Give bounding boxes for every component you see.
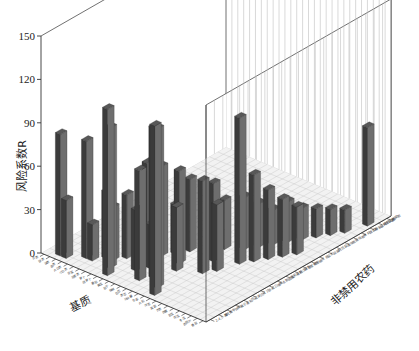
- bar-3d: [150, 120, 162, 295]
- bar-front-face: [278, 197, 283, 257]
- bar-side-face: [316, 205, 323, 238]
- z-tick-label: 30: [24, 204, 36, 216]
- z-axis-title: 风险系数R: [15, 140, 29, 192]
- bar-side-face: [254, 171, 261, 262]
- bar-side-face: [92, 221, 99, 261]
- top-left-edge: [41, 0, 226, 36]
- x-tick-mark: [164, 306, 168, 308]
- y-axis-title: 非禁用农药: [327, 261, 377, 308]
- x-tick-mark: [128, 291, 132, 293]
- bar-3d: [198, 175, 210, 274]
- x-tick-mark: [170, 308, 174, 310]
- x-tick-mark: [40, 254, 44, 256]
- bar-front-face: [340, 208, 345, 233]
- bar-front-face: [311, 207, 316, 238]
- bar-3d: [292, 201, 304, 255]
- x-tick-mark: [193, 318, 197, 320]
- x-tick-mark: [46, 257, 50, 259]
- x-tick-mark: [75, 269, 79, 271]
- bar-front-face: [212, 203, 217, 272]
- bar-side-face: [240, 114, 247, 264]
- x-tick-mark: [93, 276, 97, 278]
- bar-side-face: [190, 176, 197, 252]
- bar-front-face: [55, 132, 60, 256]
- bar-side-face: [282, 196, 289, 258]
- x-tick-mark: [87, 274, 91, 276]
- x-tick-mark: [58, 262, 62, 264]
- bar-3d: [185, 174, 197, 252]
- bar-front-face: [235, 116, 240, 264]
- x-tick-mark: [181, 313, 185, 315]
- bar-front-face: [171, 206, 176, 272]
- x-axis-title: 基质: [68, 293, 93, 314]
- z-tick-label: 120: [19, 73, 36, 85]
- x-tick-mark: [199, 321, 203, 323]
- bar-3d: [325, 204, 337, 236]
- bar-front-face: [150, 124, 155, 295]
- bar-side-face: [176, 204, 183, 272]
- bar-3d: [87, 219, 99, 261]
- bar-3d: [278, 194, 290, 258]
- bar-front-face: [325, 208, 330, 236]
- bar-3d: [362, 122, 374, 226]
- bar-front-face: [249, 173, 254, 262]
- bar-front-face: [103, 107, 108, 275]
- bar-3d: [340, 204, 352, 233]
- bar-3d: [103, 104, 115, 276]
- bar-front-face: [61, 199, 66, 259]
- x-tick-mark: [146, 299, 150, 301]
- bar-3d: [311, 203, 323, 238]
- bar-3d: [61, 195, 73, 259]
- x-tick-mark: [99, 279, 103, 281]
- y-tick-label: 嘧霉胺: [391, 212, 402, 221]
- bar-side-face: [268, 186, 275, 259]
- x-tick-mark: [187, 316, 191, 318]
- bar-side-face: [345, 206, 352, 233]
- x-tick-mark: [81, 271, 85, 273]
- bar-front-face: [292, 205, 297, 255]
- bar-front-face: [122, 193, 127, 259]
- x-tick-mark: [140, 296, 144, 298]
- bar-side-face: [224, 197, 231, 250]
- x-tick-mark: [158, 304, 162, 306]
- z-tick-label: 150: [19, 30, 36, 42]
- bar-3d: [263, 184, 275, 259]
- bar-front-face: [198, 179, 203, 274]
- x-tick-mark: [111, 284, 115, 286]
- bar-3d: [235, 112, 247, 264]
- x-tick-mark: [152, 301, 156, 303]
- chart-3d-bar-figure: 0306090120150 芹菜菠菜油菜韭菜大白菜小白菜甘蓝花椰菜萝卜胡萝卜番茄…: [0, 0, 419, 351]
- bar-3d: [134, 165, 146, 281]
- x-tick-mark: [52, 259, 56, 261]
- x-tick-mark: [176, 311, 180, 313]
- bar-side-face: [139, 167, 146, 281]
- bar-3d: [212, 199, 224, 271]
- bar-front-face: [263, 188, 268, 260]
- x-tick-mark: [64, 264, 68, 266]
- bar-side-face: [330, 206, 337, 236]
- bar-side-face: [217, 201, 224, 271]
- bar-side-face: [155, 122, 162, 295]
- bar-side-face: [367, 124, 374, 226]
- chart-svg-canvas: 0306090120150 芹菜菠菜油菜韭菜大白菜小白菜甘蓝花椰菜萝卜胡萝卜番茄…: [0, 0, 419, 351]
- x-tick-mark: [134, 294, 138, 296]
- z-tick-label: 90: [24, 117, 36, 129]
- bar-3d: [249, 169, 261, 262]
- bar-side-face: [66, 197, 73, 259]
- x-tick-mark: [70, 267, 74, 269]
- bar-front-face: [81, 139, 86, 258]
- bar-front-face: [87, 223, 92, 261]
- bar-side-face: [107, 106, 114, 276]
- bar-side-face: [297, 203, 304, 255]
- bar-3d: [171, 202, 183, 272]
- y-tick-mark: [210, 320, 214, 322]
- bar-front-face: [362, 126, 367, 226]
- bar-front-face: [134, 169, 139, 281]
- x-tick-mark: [117, 286, 121, 288]
- x-tick-mark: [105, 281, 109, 283]
- x-tick-mark: [123, 289, 127, 291]
